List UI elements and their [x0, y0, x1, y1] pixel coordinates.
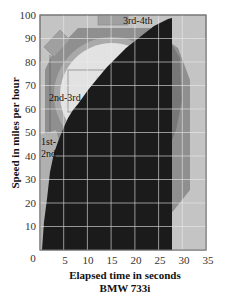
annotation-1st-2nd-b: 2nd	[41, 148, 56, 159]
svg-text:90: 90	[25, 32, 37, 44]
svg-text:80: 80	[25, 56, 37, 68]
annotation-2nd-3rd: 2nd-3rd	[49, 92, 81, 103]
svg-text:100: 100	[20, 9, 37, 21]
svg-text:30: 30	[25, 173, 37, 185]
svg-text:10: 10	[83, 254, 95, 266]
svg-text:0: 0	[30, 252, 36, 264]
svg-text:40: 40	[25, 150, 37, 162]
svg-text:5: 5	[62, 254, 68, 266]
svg-text:20: 20	[25, 197, 37, 209]
svg-text:30: 30	[179, 254, 191, 266]
svg-text:70: 70	[25, 79, 37, 91]
svg-text:50: 50	[25, 126, 37, 138]
svg-text:15: 15	[107, 254, 119, 266]
svg-text:20: 20	[131, 254, 143, 266]
x-axis-title: Elapsed time in seconds	[69, 269, 181, 281]
annotation-1st-2nd: 1st-	[41, 136, 56, 147]
svg-text:35: 35	[203, 254, 215, 266]
svg-text:25: 25	[155, 254, 167, 266]
svg-text:10: 10	[25, 220, 37, 232]
y-axis-title: Speed in miles per hour	[9, 77, 21, 188]
x-axis-ticks: 0 5 10 15 20 25 30 35	[30, 252, 214, 266]
chart-subtitle: BMW 733i	[100, 282, 151, 294]
chart: 0.0 0.0 1st- 2nd 2nd-3rd 3rd-4th 100 90 …	[0, 0, 225, 296]
y-axis-ticks: 100 90 80 70 60 50 40 30 20 10	[20, 9, 37, 232]
annotation-3rd-4th: 3rd-4th	[123, 15, 152, 26]
svg-text:60: 60	[25, 103, 37, 115]
